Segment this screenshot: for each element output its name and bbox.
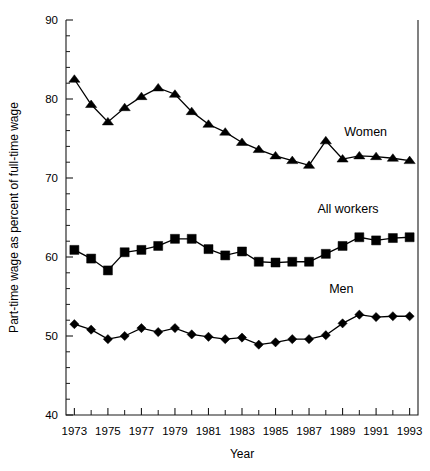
data-point-marker xyxy=(204,332,213,341)
data-point-marker xyxy=(120,248,129,257)
y-axis-minor-ticks xyxy=(66,36,70,399)
y-tick-label: 50 xyxy=(45,330,58,342)
data-point-marker xyxy=(354,151,365,159)
x-tick-label: 1985 xyxy=(263,425,289,437)
data-point-marker xyxy=(153,83,164,91)
x-tick-label: 1975 xyxy=(95,425,121,437)
x-tick-label: 1989 xyxy=(330,425,356,437)
data-point-marker xyxy=(120,331,129,340)
data-point-marker xyxy=(254,340,263,349)
x-tick-label: 1991 xyxy=(363,425,389,437)
data-point-marker xyxy=(154,241,163,250)
data-point-marker xyxy=(355,233,364,242)
data-point-marker xyxy=(220,128,231,135)
data-point-marker xyxy=(321,331,330,340)
chart-figure: 405060708090 197319751977197919811983198… xyxy=(0,0,430,471)
x-tick-label: 1983 xyxy=(229,425,255,437)
data-point-marker xyxy=(137,245,146,254)
data-point-marker xyxy=(169,90,180,98)
data-point-marker xyxy=(170,234,179,243)
data-point-marker xyxy=(187,234,196,243)
y-tick-label: 60 xyxy=(45,251,58,263)
x-tick-label: 1979 xyxy=(162,425,188,437)
plot-frame xyxy=(66,20,418,415)
data-point-marker xyxy=(237,333,246,342)
data-point-marker xyxy=(103,335,112,344)
data-point-marker xyxy=(221,335,230,344)
x-axis-tick-labels: 1973197519771979198119831985198719891991… xyxy=(62,425,423,437)
data-point-marker xyxy=(204,245,213,254)
y-tick-label: 70 xyxy=(45,172,58,184)
data-point-marker xyxy=(338,319,347,328)
data-point-marker xyxy=(271,258,280,267)
series-men xyxy=(70,310,414,349)
series-label-men: Men xyxy=(329,282,353,296)
x-tick-label: 1981 xyxy=(196,425,222,437)
data-point-marker xyxy=(187,330,196,339)
data-point-marker xyxy=(305,257,314,266)
y-tick-label: 90 xyxy=(45,14,58,26)
data-point-marker xyxy=(254,257,263,266)
data-point-marker xyxy=(253,145,264,153)
x-axis-title: Year xyxy=(230,447,254,461)
data-point-marker xyxy=(86,100,97,108)
data-point-marker xyxy=(372,236,381,245)
y-tick-label: 80 xyxy=(45,93,58,105)
data-point-marker xyxy=(304,335,313,344)
data-point-marker xyxy=(321,249,330,258)
data-point-marker xyxy=(170,324,179,333)
data-point-marker xyxy=(70,320,79,329)
x-tick-label: 1977 xyxy=(129,425,155,437)
data-point-marker xyxy=(103,266,112,275)
data-point-marker xyxy=(270,151,281,159)
data-point-marker xyxy=(320,136,331,144)
series-label-all-workers: All workers xyxy=(317,202,378,216)
data-point-marker xyxy=(405,312,414,321)
data-point-marker xyxy=(405,233,414,242)
y-tick-label: 40 xyxy=(45,409,58,421)
data-point-marker xyxy=(137,324,146,333)
data-point-marker xyxy=(271,338,280,347)
x-tick-label: 1987 xyxy=(296,425,322,437)
data-point-marker xyxy=(70,245,79,254)
line-chart: 405060708090 197319751977197919811983198… xyxy=(0,0,430,471)
series-annotation-labels: WomenAll workersMen xyxy=(317,125,387,296)
data-point-marker xyxy=(69,75,80,83)
y-axis-title: Part-time wage as percent of full-time w… xyxy=(7,102,21,333)
data-point-marker xyxy=(238,247,247,256)
axis-frame xyxy=(66,20,418,415)
data-point-marker xyxy=(388,312,397,321)
x-tick-label: 1993 xyxy=(397,425,423,437)
data-point-marker xyxy=(355,310,364,319)
x-tick-label: 1973 xyxy=(62,425,88,437)
y-axis-tick-labels: 405060708090 xyxy=(45,14,58,421)
data-point-marker xyxy=(371,312,380,321)
data-point-marker xyxy=(87,325,96,334)
series-women xyxy=(69,75,415,169)
data-point-marker xyxy=(221,251,230,260)
data-point-marker xyxy=(288,335,297,344)
data-point-marker xyxy=(119,103,130,111)
series-all-workers xyxy=(70,233,414,275)
data-point-marker xyxy=(338,241,347,250)
data-point-marker xyxy=(236,138,247,146)
data-point-marker xyxy=(136,92,147,100)
series-label-women: Women xyxy=(344,125,387,139)
data-point-marker xyxy=(87,254,96,263)
data-point-marker xyxy=(154,327,163,336)
data-point-marker xyxy=(288,257,297,266)
data-point-marker xyxy=(388,234,397,243)
